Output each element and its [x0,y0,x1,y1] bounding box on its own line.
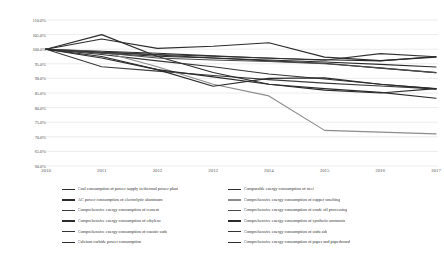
y-axis-tick: 65.0% [6,149,46,154]
y-axis-tick: 100.0% [6,47,46,52]
legend-item-label: Calcium carbide power consumption [78,239,142,245]
legend-color-swatch [228,189,241,191]
legend-item[interactable]: Comprehensive energy consumption of ceme… [62,205,230,216]
legend-item[interactable]: Comprehensive energy consumption of soda… [228,226,428,237]
chart-canvas [0,0,444,185]
x-axis-tick: 2011 [97,168,106,174]
legend-color-swatch [228,199,241,201]
legend-item-label: Comprehensive energy consumption of caus… [78,229,168,235]
legend-item[interactable]: AC power consumption of electrolytic alu… [62,195,230,206]
legend-column-left: Coal consumption of power supply in ther… [62,184,230,248]
y-axis-tick: 80.0% [6,105,46,110]
legend-item[interactable]: Comprehensive energy consumption of caus… [62,226,230,237]
x-axis-tick: 2010 [41,168,51,174]
legend-item-label: Comprehensive energy consumption of crud… [244,207,348,213]
legend-item-label: AC power consumption of electrolytic alu… [78,197,163,203]
legend-item-label: Comprehensive energy consumption of ethy… [78,218,162,224]
legend-color-swatch [62,242,75,244]
legend-color-swatch [228,231,241,233]
y-axis-tick: 105.0% [6,32,46,37]
x-axis-tick: 2015 [320,168,330,174]
series-lines [46,35,436,134]
line-chart: 110.0%105.0%100.0%95.0%90.0%85.0%80.0%75… [0,0,444,260]
chart-legend: Coal consumption of power supply in ther… [0,184,444,260]
plot-area: 110.0%105.0%100.0%95.0%90.0%85.0%80.0%75… [0,0,444,185]
legend-item[interactable]: Comparable energy consumption of steel [228,184,428,195]
series-line-11 [46,49,436,93]
y-axis-tick: 75.0% [6,120,46,125]
legend-item[interactable]: Comprehensive energy consumption of copp… [228,195,428,206]
legend-item-label: Comprehensive energy consumption of soda… [244,229,328,235]
legend-item[interactable]: Comprehensive energy consumption of ethy… [62,216,230,227]
legend-item-label: Comprehensive energy consumption of ceme… [78,207,160,213]
y-axis-tick: 90.0% [6,76,46,81]
legend-color-swatch [62,199,75,201]
legend-item[interactable]: Calcium carbide power consumption [62,237,230,248]
y-axis-tick: 95.0% [6,61,46,66]
legend-item-label: Coal consumption of power supply in ther… [78,186,179,192]
legend-color-swatch [62,210,75,212]
legend-item-label: Comprehensive energy consumption of copp… [244,197,341,203]
legend-color-swatch [62,231,75,233]
legend-color-swatch [228,242,241,244]
legend-item-label: Comprehensive energy consumption of synt… [244,218,346,224]
legend-column-right: Comparable energy consumption of steelCo… [228,184,428,248]
x-axis-tick: 2017 [431,168,441,174]
legend-item[interactable]: Coal consumption of power supply in ther… [62,184,230,195]
legend-color-swatch [228,220,241,222]
y-axis-tick: 70.0% [6,134,46,139]
legend-color-swatch [228,210,241,212]
legend-item[interactable]: Comprehensive energy consumption of crud… [228,205,428,216]
y-axis-tick: 85.0% [6,91,46,96]
y-axis-tick: 110.0% [6,18,46,23]
x-axis-tick: 2014 [264,168,274,174]
legend-item[interactable]: Comprehensive energy consumption of synt… [228,216,428,227]
x-axis-tick: 2012 [153,168,163,174]
x-axis-tick: 2013 [208,168,218,174]
legend-item-label: Comprehensive energy consumption of pape… [244,239,350,245]
series-line-7 [46,49,436,134]
legend-item[interactable]: Comprehensive energy consumption of pape… [228,237,428,248]
x-axis-tick: 2016 [375,168,385,174]
legend-color-swatch [62,189,75,191]
legend-item-label: Comparable energy consumption of steel [244,186,315,192]
x-axis-tick-labels: 20102011201220132014201520162017 [0,168,444,180]
y-axis-tick-labels: 110.0%105.0%100.0%95.0%90.0%85.0%80.0%75… [6,0,46,160]
legend-color-swatch [62,220,75,222]
